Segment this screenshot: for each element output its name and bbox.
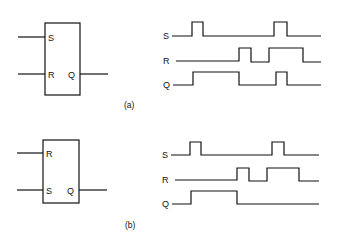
waveform-q: [173, 72, 321, 85]
input-label-bottom: S: [46, 186, 52, 196]
waveform-s: [171, 142, 319, 155]
wave-label-q: Q: [163, 80, 170, 90]
waveform-q: [172, 191, 319, 204]
waveform-r: [176, 48, 321, 62]
input-label-top: R: [46, 149, 53, 159]
flipflop-block-a: S R Q: [18, 23, 108, 95]
wave-label-s: S: [163, 31, 169, 41]
wave-label-s: S: [162, 150, 168, 160]
input-label-bottom: R: [48, 70, 55, 80]
caption-a: (a): [124, 100, 135, 110]
timing-diagram-a: S R Q: [163, 22, 321, 90]
timing-diagram-b: S R Q: [162, 142, 319, 209]
wave-label-q: Q: [162, 199, 169, 209]
caption-b: (b): [125, 220, 136, 230]
output-label: Q: [68, 70, 75, 80]
input-label-top: S: [48, 33, 54, 43]
wave-label-r: R: [163, 56, 170, 66]
waveform-s: [172, 22, 321, 36]
panel-a: S R Q S R Q (a): [18, 22, 321, 110]
sr-flipflop-diagram: S R Q S R Q (a) R S Q S R: [0, 0, 339, 242]
flipflop-block-b: R S Q: [17, 140, 107, 203]
panel-b: R S Q S R Q (b): [17, 140, 319, 230]
waveform-r: [175, 168, 319, 181]
output-label: Q: [67, 186, 74, 196]
wave-label-r: R: [162, 175, 169, 185]
